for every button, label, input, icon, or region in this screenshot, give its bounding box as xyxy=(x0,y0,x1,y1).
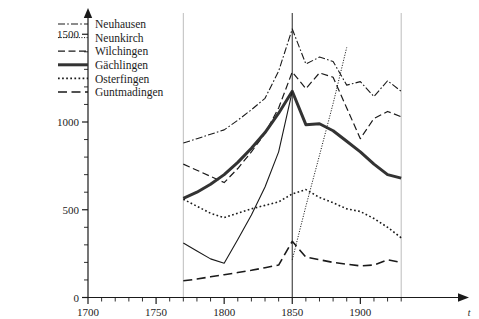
y-axis-tick-labels: 050010001500 xyxy=(57,28,80,303)
x-tick-label: 1850 xyxy=(281,306,304,318)
y-tick-label: 0 xyxy=(74,292,80,304)
x-axis-title: t xyxy=(468,308,471,318)
y-tick-label: 1500 xyxy=(57,28,80,40)
x-axis-ticks xyxy=(88,298,401,305)
chart-root: 050010001500 17001750180018501900 t Neuh… xyxy=(0,0,479,319)
legend-label-gächlingen: Gächlingen xyxy=(95,59,148,72)
legend-label-neunkirch: Neunkirch xyxy=(95,32,144,44)
x-tick-label: 1800 xyxy=(213,306,236,318)
y-tick-label: 500 xyxy=(63,204,80,216)
x-axis-tick-labels: 17001750180018501900 xyxy=(77,306,372,318)
x-axis-title-label: t xyxy=(468,308,471,318)
x-tick-label: 1900 xyxy=(349,306,372,318)
marker-vertical-lines xyxy=(183,13,401,298)
x-tick-label: 1700 xyxy=(77,306,100,318)
y-axis-arrow-icon xyxy=(84,8,92,18)
series-line-neunkirch xyxy=(292,47,346,259)
legend-label-guntmadingen: Guntmadingen xyxy=(95,86,164,99)
legend-label-osterfingen: Osterfingen xyxy=(95,73,150,86)
y-axis-ticks xyxy=(82,34,88,297)
x-axis-arrow-icon xyxy=(458,293,469,302)
y-tick-label: 1000 xyxy=(57,116,80,128)
population-line-chart: 050010001500 17001750180018501900 t Neuh… xyxy=(0,0,479,319)
x-tick-label: 1750 xyxy=(145,306,168,318)
legend-label-neuhausen: Neuhausen xyxy=(95,18,146,30)
legend-label-wilchingen: Wilchingen xyxy=(95,45,148,58)
